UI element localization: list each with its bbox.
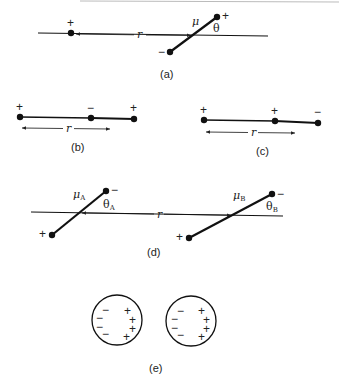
dipole-positive-end [131, 116, 137, 122]
angle-b-label: θB [266, 200, 278, 214]
distance-arrow-right-d [164, 214, 231, 215]
dipole-b-negative-sign: − [277, 187, 284, 201]
charge-link-c [204, 120, 275, 121]
distance-arrow-left-b [22, 128, 63, 129]
dipole-a-negative-sign: − [111, 183, 118, 197]
distance-label: r [66, 122, 72, 135]
point-charge [68, 30, 74, 36]
dipole-negative-end [167, 49, 173, 55]
point-charge [17, 114, 23, 120]
dipole-a-label: μA [73, 188, 86, 202]
dipole-negative-end [315, 120, 321, 126]
neg-charge: − [102, 303, 109, 317]
charge-link-b [20, 117, 91, 118]
panel-e: − − − − + + + + − − − − + + + + (e) [92, 295, 216, 374]
charge-sign: + [67, 16, 74, 30]
dipole-b-positive-end [186, 235, 192, 241]
panel-a: + r + − μ θ (a) [38, 9, 268, 80]
dipole-a-positive-end [49, 232, 55, 238]
angle-label: θ [213, 22, 220, 35]
distance-label: r [251, 126, 257, 139]
caption-d: (d) [147, 246, 160, 258]
sign-2: − [87, 101, 94, 115]
dipole-c [275, 121, 318, 123]
neg-charge: − [177, 328, 184, 342]
panel-d: r − + μA θA − + μB θB (d) [31, 183, 284, 258]
dipole-positive-end [214, 14, 220, 20]
panel-c: + + − r (c) [200, 103, 321, 157]
distance-arrow-left-c [206, 132, 248, 133]
sign-1: + [200, 103, 207, 117]
sign-3: + [130, 101, 137, 115]
sign-3: − [314, 105, 321, 119]
dipole-positive-end [272, 118, 278, 124]
distance-label: r [157, 208, 163, 221]
distance-label: r [137, 28, 143, 41]
dipole-a-negative-end [103, 188, 109, 194]
pos-charge: + [123, 330, 130, 344]
neg-charge: − [102, 327, 109, 341]
caption-e: (e) [149, 362, 162, 374]
sign-1: + [16, 100, 23, 114]
pos-charge: + [198, 330, 205, 344]
dipole-a-positive-sign: + [39, 227, 46, 241]
dipole-b-positive-sign: + [176, 230, 183, 244]
caption-c: (c) [256, 145, 269, 157]
caption-b: (b) [71, 141, 84, 153]
sign-2: + [271, 104, 278, 118]
dipole-positive-sign: + [222, 9, 229, 23]
dipole-negative-sign: − [158, 45, 165, 59]
scan-edge-line [80, 1, 339, 2]
pos-charge: + [129, 322, 136, 336]
distance-arrow-left-d [82, 213, 154, 214]
dipole-b [91, 118, 134, 119]
dipole-b-label: μB [233, 189, 245, 203]
angle-a-label: θA [103, 198, 116, 212]
point-charge [201, 117, 207, 123]
neg-charge: − [177, 304, 184, 318]
dipole-moment-label: μ [192, 15, 199, 28]
dipole-negative-end [88, 115, 94, 121]
panel-b: + − + r (b) [16, 100, 137, 153]
caption-a: (a) [160, 68, 173, 80]
dipole-b-negative-end [269, 191, 275, 197]
dipole-interaction-diagram: + r + − μ θ (a) + − + r (b) + + − r [0, 0, 339, 386]
